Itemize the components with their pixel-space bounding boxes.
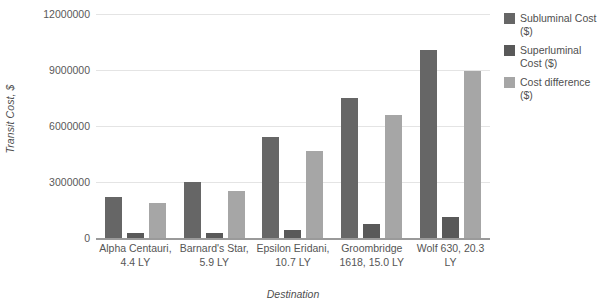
- bar-group: [175, 14, 254, 238]
- bar-chart: Transit Cost, $ 120000009000000600000030…: [0, 0, 598, 308]
- x-axis-title: Destination: [96, 288, 490, 300]
- legend-item[interactable]: Cost difference ($): [504, 76, 598, 102]
- bar[interactable]: [363, 224, 380, 238]
- bar-group: [411, 14, 490, 238]
- y-axis-tick-label: 9000000: [10, 64, 96, 76]
- bar[interactable]: [284, 230, 301, 238]
- bar[interactable]: [206, 233, 223, 238]
- bar-group: [96, 14, 175, 238]
- x-axis-tick-label: Alpha Centauri, 4.4 LY: [96, 242, 175, 269]
- y-axis-tick-label: 6000000: [10, 120, 96, 132]
- legend-item[interactable]: Subluminal Cost ($): [504, 12, 598, 38]
- bar[interactable]: [105, 197, 122, 238]
- bar[interactable]: [385, 115, 402, 238]
- legend-swatch-icon: [504, 77, 515, 88]
- legend-swatch-icon: [504, 45, 515, 56]
- x-axis-tick-label: Wolf 630, 20.3 LY: [411, 242, 490, 269]
- y-axis-tick-label: 0: [10, 232, 96, 244]
- bar[interactable]: [420, 50, 437, 238]
- y-axis-tick-label: 3000000: [10, 176, 96, 188]
- x-axis-line: [96, 238, 490, 240]
- bar[interactable]: [149, 203, 166, 238]
- bar-group: [332, 14, 411, 238]
- x-axis-tick-label: Barnard's Star, 5.9 LY: [175, 242, 254, 269]
- x-axis-tick-label: Epsilon Eridani, 10.7 LY: [254, 242, 333, 269]
- y-axis-tick-label: 12000000: [10, 8, 96, 20]
- bar[interactable]: [306, 151, 323, 238]
- bar[interactable]: [442, 217, 459, 238]
- chart-legend: Subluminal Cost ($)Superluminal Cost ($)…: [504, 12, 598, 108]
- bar[interactable]: [341, 98, 358, 238]
- bar[interactable]: [127, 233, 144, 238]
- bar[interactable]: [184, 182, 201, 238]
- bars-layer: [96, 14, 490, 238]
- legend-label: Superluminal Cost ($): [520, 44, 598, 70]
- bar-group: [254, 14, 333, 238]
- bar[interactable]: [262, 137, 279, 238]
- legend-label: Subluminal Cost ($): [520, 12, 598, 38]
- legend-swatch-icon: [504, 13, 515, 24]
- y-axis-tick-labels: 120000009000000600000030000000: [0, 0, 96, 308]
- bar[interactable]: [464, 71, 481, 238]
- bar[interactable]: [228, 191, 245, 238]
- x-axis-tick-label: Groombridge 1618, 15.0 LY: [332, 242, 411, 269]
- legend-item[interactable]: Superluminal Cost ($): [504, 44, 598, 70]
- x-axis-tick-labels: Alpha Centauri, 4.4 LYBarnard's Star, 5.…: [96, 242, 490, 290]
- legend-label: Cost difference ($): [520, 76, 598, 102]
